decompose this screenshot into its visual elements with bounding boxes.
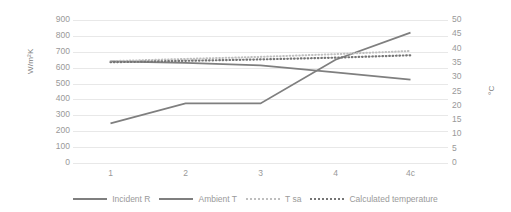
y-tick-right: 35 bbox=[452, 58, 484, 67]
series-line bbox=[111, 61, 411, 79]
legend-label: Calculated temperature bbox=[349, 194, 437, 204]
legend-item[interactable]: T sa bbox=[246, 194, 301, 204]
y-tick-left: 600 bbox=[38, 63, 70, 72]
legend-swatch-icon bbox=[73, 195, 107, 203]
y-tick-left: 100 bbox=[38, 142, 70, 151]
legend-swatch-icon bbox=[246, 195, 280, 203]
y-axis-right-title: °C bbox=[487, 86, 496, 95]
y-tick-right: 15 bbox=[452, 115, 484, 124]
x-tick-label: 4c bbox=[406, 168, 415, 178]
y-tick-left: 300 bbox=[38, 110, 70, 119]
y-tick-right: 50 bbox=[452, 15, 484, 24]
x-tick-label: 1 bbox=[108, 168, 113, 178]
y-tick-right: 20 bbox=[452, 101, 484, 110]
legend-swatch-icon bbox=[310, 195, 344, 203]
y-tick-left: 0 bbox=[38, 158, 70, 167]
y-tick-right: 5 bbox=[452, 144, 484, 153]
y-tick-right: 0 bbox=[452, 158, 484, 167]
y-tick-left: 500 bbox=[38, 79, 70, 88]
chart-container: W/m²K °C 9008007006005004003002001000 50… bbox=[0, 0, 511, 212]
plot-area bbox=[73, 20, 448, 163]
y-tick-right: 25 bbox=[452, 87, 484, 96]
y-axis-right-ticks: 50454035302520151050 bbox=[452, 0, 484, 212]
x-tick-label: 3 bbox=[258, 168, 263, 178]
y-axis-left-ticks: 9008007006005004003002001000 bbox=[38, 0, 70, 212]
chart-legend: Incident RAmbient TT saCalculated temper… bbox=[0, 191, 511, 207]
legend-item[interactable]: Incident R bbox=[73, 194, 150, 204]
legend-item[interactable]: Ambient T bbox=[159, 194, 237, 204]
legend-label: Incident R bbox=[112, 194, 150, 204]
y-tick-left: 400 bbox=[38, 94, 70, 103]
y-tick-right: 30 bbox=[452, 72, 484, 81]
legend-label: T sa bbox=[285, 194, 301, 204]
y-tick-right: 40 bbox=[452, 44, 484, 53]
legend-label: Ambient T bbox=[198, 194, 237, 204]
x-tick-label: 4 bbox=[333, 168, 338, 178]
gridline bbox=[73, 163, 448, 164]
legend-swatch-icon bbox=[159, 195, 193, 203]
x-tick-label: 2 bbox=[183, 168, 188, 178]
x-axis-ticks: 12344c bbox=[73, 168, 448, 182]
y-tick-left: 700 bbox=[38, 47, 70, 56]
y-tick-left: 900 bbox=[38, 15, 70, 24]
legend-item[interactable]: Calculated temperature bbox=[310, 194, 437, 204]
series-line bbox=[111, 33, 411, 124]
y-tick-left: 200 bbox=[38, 126, 70, 135]
y-axis-left-title: W/m²K bbox=[26, 49, 35, 74]
y-tick-left: 800 bbox=[38, 31, 70, 40]
series-lines bbox=[73, 20, 448, 163]
y-tick-right: 45 bbox=[452, 29, 484, 38]
y-tick-right: 10 bbox=[452, 129, 484, 138]
